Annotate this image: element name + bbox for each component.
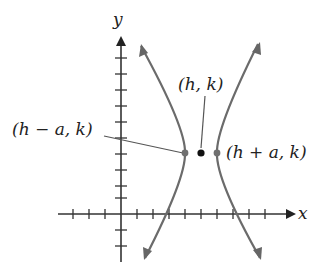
y-axis-label: y [113, 11, 123, 28]
right-vertex-point [214, 150, 221, 157]
left-vertex-leader [104, 136, 183, 153]
x-axis-label: x [298, 205, 308, 222]
center-leader [201, 96, 205, 148]
center-label: (h, k) [178, 76, 223, 93]
left-vertex-point [182, 150, 189, 157]
x-axis [58, 209, 294, 219]
left-vertex-label: (h − a, k) [12, 121, 93, 138]
right-vertex-label: (h + a, k) [226, 144, 307, 161]
hyperbola-diagram: y x (h, k) (h − a, k) (h + a, k) [0, 0, 330, 271]
y-axis [115, 38, 127, 262]
center-point [197, 149, 204, 156]
